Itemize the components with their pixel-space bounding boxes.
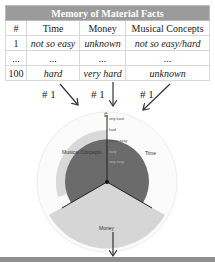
arrow-icon <box>60 84 78 105</box>
scale-hard: hard <box>109 128 116 132</box>
arrow-icon <box>143 84 170 110</box>
axis-symbol: Ē <box>104 112 108 118</box>
radial-diagram: Ē very hard hard not so easy easy very e… <box>0 0 215 262</box>
label-time: Time <box>145 150 156 156</box>
label-musical-concepts: Musical Concepts <box>62 149 102 155</box>
scale-not-so-easy: not so easy <box>109 139 127 143</box>
scale-very-hard: very hard <box>109 117 124 121</box>
scale-very-easy: very easy <box>109 160 124 164</box>
label-money: Money <box>99 225 115 231</box>
scale-easy: easy <box>109 150 117 154</box>
bottom-bar <box>0 257 215 262</box>
